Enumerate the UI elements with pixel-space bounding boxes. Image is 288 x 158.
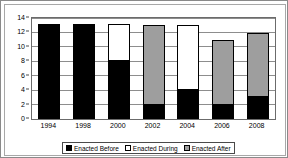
x-tick-label: 2006 [214, 122, 230, 130]
bar-segment[interactable] [177, 89, 199, 119]
bar-segment[interactable] [143, 104, 165, 119]
x-tick-label: 1998 [75, 122, 91, 130]
chart-frame: 02468101214 1994199820002002200420062008… [0, 0, 288, 158]
y-tick-label: 2 [21, 100, 25, 107]
y-tick-mark [26, 74, 29, 75]
legend-item[interactable]: Enacted During [125, 145, 178, 152]
y-tick-label: 10 [17, 42, 25, 49]
y-tick-mark [26, 103, 29, 104]
y-tick-label: 6 [21, 71, 25, 78]
x-tick-label: 2002 [145, 122, 161, 130]
bar-group[interactable] [143, 18, 165, 119]
chart-legend: Enacted BeforeEnacted DuringEnacted Afte… [62, 142, 235, 154]
plot-area [31, 17, 276, 120]
bar-segment[interactable] [212, 40, 234, 104]
bar-group[interactable] [177, 18, 199, 119]
y-tick-mark [26, 89, 29, 90]
chart-canvas: 02468101214 1994199820002002200420062008… [4, 4, 286, 156]
x-tick-label: 2004 [179, 122, 195, 130]
bar-segment[interactable] [143, 25, 165, 105]
y-tick-label: 8 [21, 57, 25, 64]
bar-group[interactable] [38, 18, 60, 119]
bar-segment[interactable] [247, 96, 269, 119]
bar-group[interactable] [73, 18, 95, 119]
y-tick-mark [26, 17, 29, 18]
y-tick-label: 4 [21, 86, 25, 93]
bar-segment[interactable] [73, 24, 95, 119]
legend-item[interactable]: Enacted After [184, 145, 231, 152]
x-tick-label: 2008 [249, 122, 265, 130]
legend-swatch-icon [184, 145, 190, 151]
y-tick-label: 0 [21, 115, 25, 122]
legend-label: Enacted After [192, 145, 231, 152]
legend-swatch-icon [66, 145, 72, 151]
bar-segment[interactable] [247, 33, 269, 97]
bar-segment[interactable] [177, 25, 199, 90]
y-tick-label: 12 [17, 28, 25, 35]
y-axis: 02468101214 [5, 17, 29, 120]
bar-segment[interactable] [212, 104, 234, 119]
bar-segment[interactable] [108, 24, 130, 61]
x-axis: 1994199820002002200420062008 [31, 122, 276, 134]
legend-label: Enacted Before [74, 145, 119, 152]
y-tick-mark [26, 45, 29, 46]
bar-group[interactable] [108, 18, 130, 119]
legend-item[interactable]: Enacted Before [66, 145, 119, 152]
bar-group[interactable] [247, 18, 269, 119]
legend-swatch-icon [125, 145, 131, 151]
y-tick-mark [26, 60, 29, 61]
bar-segment[interactable] [108, 60, 130, 119]
bar-segment[interactable] [38, 24, 60, 119]
x-tick-label: 1994 [41, 122, 57, 130]
y-tick-label: 14 [17, 14, 25, 21]
legend-label: Enacted During [133, 145, 178, 152]
y-tick-mark [26, 118, 29, 119]
x-tick-label: 2000 [110, 122, 126, 130]
y-tick-mark [26, 31, 29, 32]
bar-group[interactable] [212, 18, 234, 119]
